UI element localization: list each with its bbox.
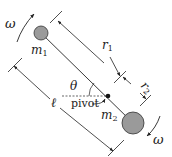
ell-label: ℓ (51, 95, 57, 110)
theta-arc (89, 83, 94, 96)
r1-dimension (50, 11, 126, 83)
m2-label: m2 (101, 108, 117, 123)
omega-bottom-label: ω (153, 132, 164, 147)
ell-dimension (8, 58, 124, 156)
r1-label: r1 (102, 38, 113, 53)
mass-m2 (122, 112, 144, 134)
pivot-point (106, 94, 111, 99)
pivot-label: pivot (71, 97, 99, 110)
omega-top-arrow (17, 14, 34, 42)
omega-top-label: ω (5, 16, 16, 31)
rotating-dumbbell-diagram: ω ω m1 m2 r1 r2 ℓ θ pivot (0, 0, 172, 157)
r2-label: r2 (137, 79, 155, 97)
m1-label: m1 (31, 43, 47, 58)
theta-label: θ (70, 79, 78, 93)
mass-m1 (34, 26, 48, 40)
